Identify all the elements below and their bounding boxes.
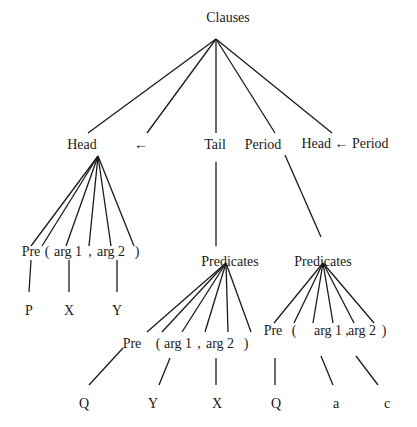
edge-head-leaf [29,260,31,292]
parse-tree-diagram: Clauses Head ← Tail Period Head ← Period… [0,0,417,427]
tail-leaf-x: X [212,396,222,412]
head-child-open-paren: ( [45,244,50,260]
tree-edges [0,0,417,427]
period-leaf-c: c [384,396,390,412]
edge-period-predicates [285,155,321,237]
head-child-pre: Pre [22,244,41,260]
period-predicates: Predicates [294,254,352,270]
node-head: Head [67,137,97,153]
tail-child-close-paren: ) [244,336,249,352]
tail-predicates: Predicates [201,254,259,270]
edge-head-child [98,156,134,246]
edge-period-leaf [321,356,333,385]
period-child-arg1: arg 1 [314,323,342,339]
tail-child-pre: Pre [123,336,142,352]
node-clauses: Clauses [206,10,250,26]
tail-child-arg2: arg 2 [206,336,234,352]
edge-tail-child [205,263,226,332]
tail-child-arg1: arg 1 [164,336,192,352]
edge-tail-child [182,263,226,332]
period-leaf-q: Q [271,396,281,412]
edge-head-child [42,156,98,246]
period-child-open-paren: ( [292,323,297,339]
period-child-pre: Pre [264,323,283,339]
period-leaf-a: a [333,396,339,412]
node-tail: Tail [204,137,226,153]
edge-head-child [31,156,98,246]
edge-root-head-arrow-period [216,39,332,133]
edge-tail-child [147,263,226,332]
head-leaf-p: P [25,303,33,319]
tail-leaf-y: Y [148,396,158,412]
tail-leaf-q: Q [79,396,89,412]
head-child-arg2: arg 2 [97,244,125,260]
edge-period-leaf [356,356,378,385]
edge-root-period [216,39,275,133]
head-child-close-paren: ) [135,244,140,260]
head-leaf-y: Y [112,303,122,319]
node-arrow: ← [134,137,148,153]
edge-tail-leaf [89,348,123,385]
tail-child-comma: , [197,336,201,352]
tail-child-open-paren: ( [156,336,161,352]
edge-head-child [98,156,111,246]
node-head-arrow-period: Head ← Period [301,136,388,152]
edge-root-arrow [147,39,216,133]
edge-tail-child [162,263,226,332]
edge-tail-child [226,263,251,332]
edge-period-child [323,263,374,323]
edge-root-head [88,39,216,133]
head-leaf-x: X [64,303,74,319]
edge-tail-leaf [159,358,170,385]
node-period: Period [245,137,282,153]
head-child-comma: , [88,244,92,260]
head-child-arg1: arg 1 [54,244,82,260]
period-child-arg2: arg 2 [348,323,376,339]
period-child-close-paren: ) [382,323,387,339]
edge-tail-child [226,263,228,332]
